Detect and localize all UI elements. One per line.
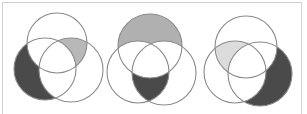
venn-diagrams xyxy=(0,0,307,114)
venn-diagram-3 xyxy=(0,0,307,114)
shaded-region-right-only xyxy=(0,0,307,114)
